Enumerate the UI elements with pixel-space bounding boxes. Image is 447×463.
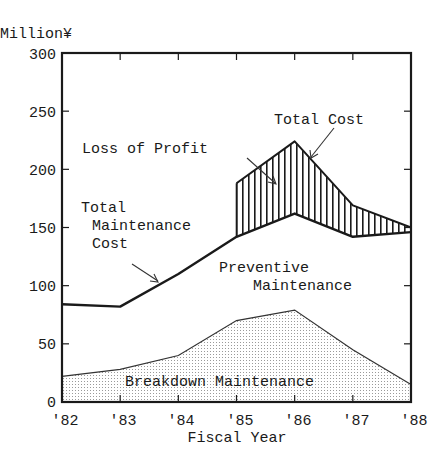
y-tick-300: 300 xyxy=(29,47,56,64)
x-tick-83: '83 xyxy=(109,413,136,430)
y-axis-unit: Million¥ xyxy=(0,26,72,43)
maintenance-cost-chart: Million¥ 0 50 100 150 200 250 300 '82 '8… xyxy=(0,0,447,463)
x-tick-87: '87 xyxy=(342,413,369,430)
loss-of-profit-label: Loss of Profit xyxy=(82,141,208,158)
y-tick-50: 50 xyxy=(38,337,56,354)
x-tick-82: '82 xyxy=(51,413,78,430)
y-tick-100: 100 xyxy=(29,279,56,296)
total-maintenance-arrow xyxy=(132,264,158,281)
y-tick-150: 150 xyxy=(29,221,56,238)
total-cost-label: Total Cost xyxy=(274,112,364,129)
total-maintenance-label-line2: Maintenance xyxy=(92,218,191,235)
preventive-label-line1: Preventive xyxy=(219,260,309,277)
x-tick-84: '84 xyxy=(167,413,194,430)
x-tick-88: '88 xyxy=(400,413,427,430)
breakdown-label: Breakdown Maintenance xyxy=(125,374,314,391)
y-tick-200: 200 xyxy=(29,163,56,180)
loss-of-profit-band xyxy=(237,141,412,236)
y-tick-250: 250 xyxy=(29,105,56,122)
total-maintenance-label-line1: Total xyxy=(81,200,126,217)
x-tick-86: '86 xyxy=(284,413,311,430)
x-tick-labels: '82 '83 '84 '85 '86 '87 '88 xyxy=(51,413,427,430)
x-tick-85: '85 xyxy=(226,413,253,430)
x-axis-title: Fiscal Year xyxy=(187,430,286,447)
y-tick-labels: 0 50 100 150 200 250 300 xyxy=(29,47,56,412)
y-tick-0: 0 xyxy=(47,395,56,412)
total-maintenance-label-line3: Cost xyxy=(92,236,128,253)
preventive-label-line2: Maintenance xyxy=(253,278,352,295)
total-cost-arrow xyxy=(311,128,334,157)
